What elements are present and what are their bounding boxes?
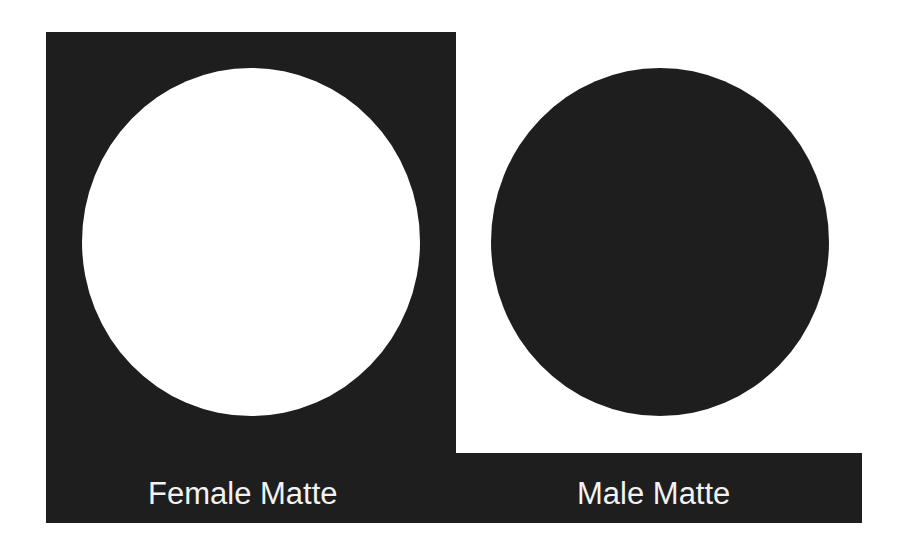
female-matte-label: Female Matte [148,476,338,512]
male-matte-label: Male Matte [577,476,730,512]
female-matte-circle-cutout [82,68,420,416]
male-matte-circle [491,68,829,416]
